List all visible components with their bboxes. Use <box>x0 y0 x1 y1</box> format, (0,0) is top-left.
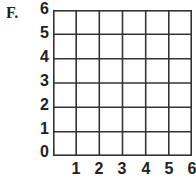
x-tick-6: 6 <box>185 160 196 178</box>
problem-label: F. <box>6 4 18 22</box>
x-tick-2: 2 <box>92 160 106 178</box>
x-tick-4: 4 <box>139 160 153 178</box>
y-tick-1: 1 <box>35 120 49 138</box>
coordinate-grid <box>53 10 192 156</box>
x-tick-1: 1 <box>69 160 83 178</box>
y-tick-3: 3 <box>35 72 49 90</box>
y-tick-6: 6 <box>35 0 49 18</box>
x-tick-3: 3 <box>115 160 129 178</box>
y-tick-4: 4 <box>35 48 49 66</box>
y-tick-0: 0 <box>35 143 49 161</box>
x-tick-5: 5 <box>162 160 176 178</box>
y-tick-2: 2 <box>35 96 49 114</box>
y-tick-5: 5 <box>35 24 49 42</box>
